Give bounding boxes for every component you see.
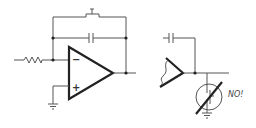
junction-node — [124, 71, 127, 74]
left-circuit: − + — [14, 9, 136, 109]
noninverting-input-symbol: + — [72, 82, 80, 93]
ground-left — [48, 86, 69, 109]
op-amp-partial — [160, 58, 183, 87]
junction-node — [124, 36, 127, 39]
junction-node — [51, 36, 54, 39]
circuit-diagram: − + — [0, 0, 256, 128]
input-resistor — [14, 57, 53, 63]
feedback-capacitor — [53, 33, 126, 43]
right-circuit: NO! — [160, 33, 244, 118]
ground-right — [202, 113, 212, 118]
op-amp: − + — [69, 47, 113, 99]
jfet-crossed-out — [196, 73, 222, 118]
junction-node — [51, 58, 54, 61]
junction-node — [193, 71, 196, 74]
no-annotation: NO! — [228, 90, 244, 99]
slash-icon — [196, 82, 222, 114]
inverting-input-symbol: − — [72, 54, 80, 65]
reset-switch — [53, 9, 126, 17]
feedback-capacitor-right — [163, 33, 195, 73]
